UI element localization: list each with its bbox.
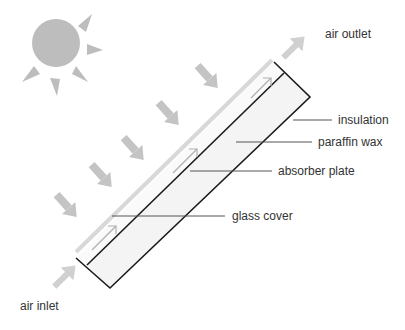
air-outlet-arrow-icon [277,30,311,64]
air-inlet-arrow-icon [48,259,82,293]
absorber-plate-label: absorber plate [278,164,355,178]
glass-cover-label: glass cover [232,209,293,223]
paraffin-wax-label: paraffin wax [318,135,382,149]
air-inlet-label: air inlet [20,299,59,313]
air-outlet-label: air outlet [325,27,371,41]
paraffin-wax-region [87,73,310,288]
insulation-label: insulation [338,113,389,127]
sun-icon [22,14,103,96]
